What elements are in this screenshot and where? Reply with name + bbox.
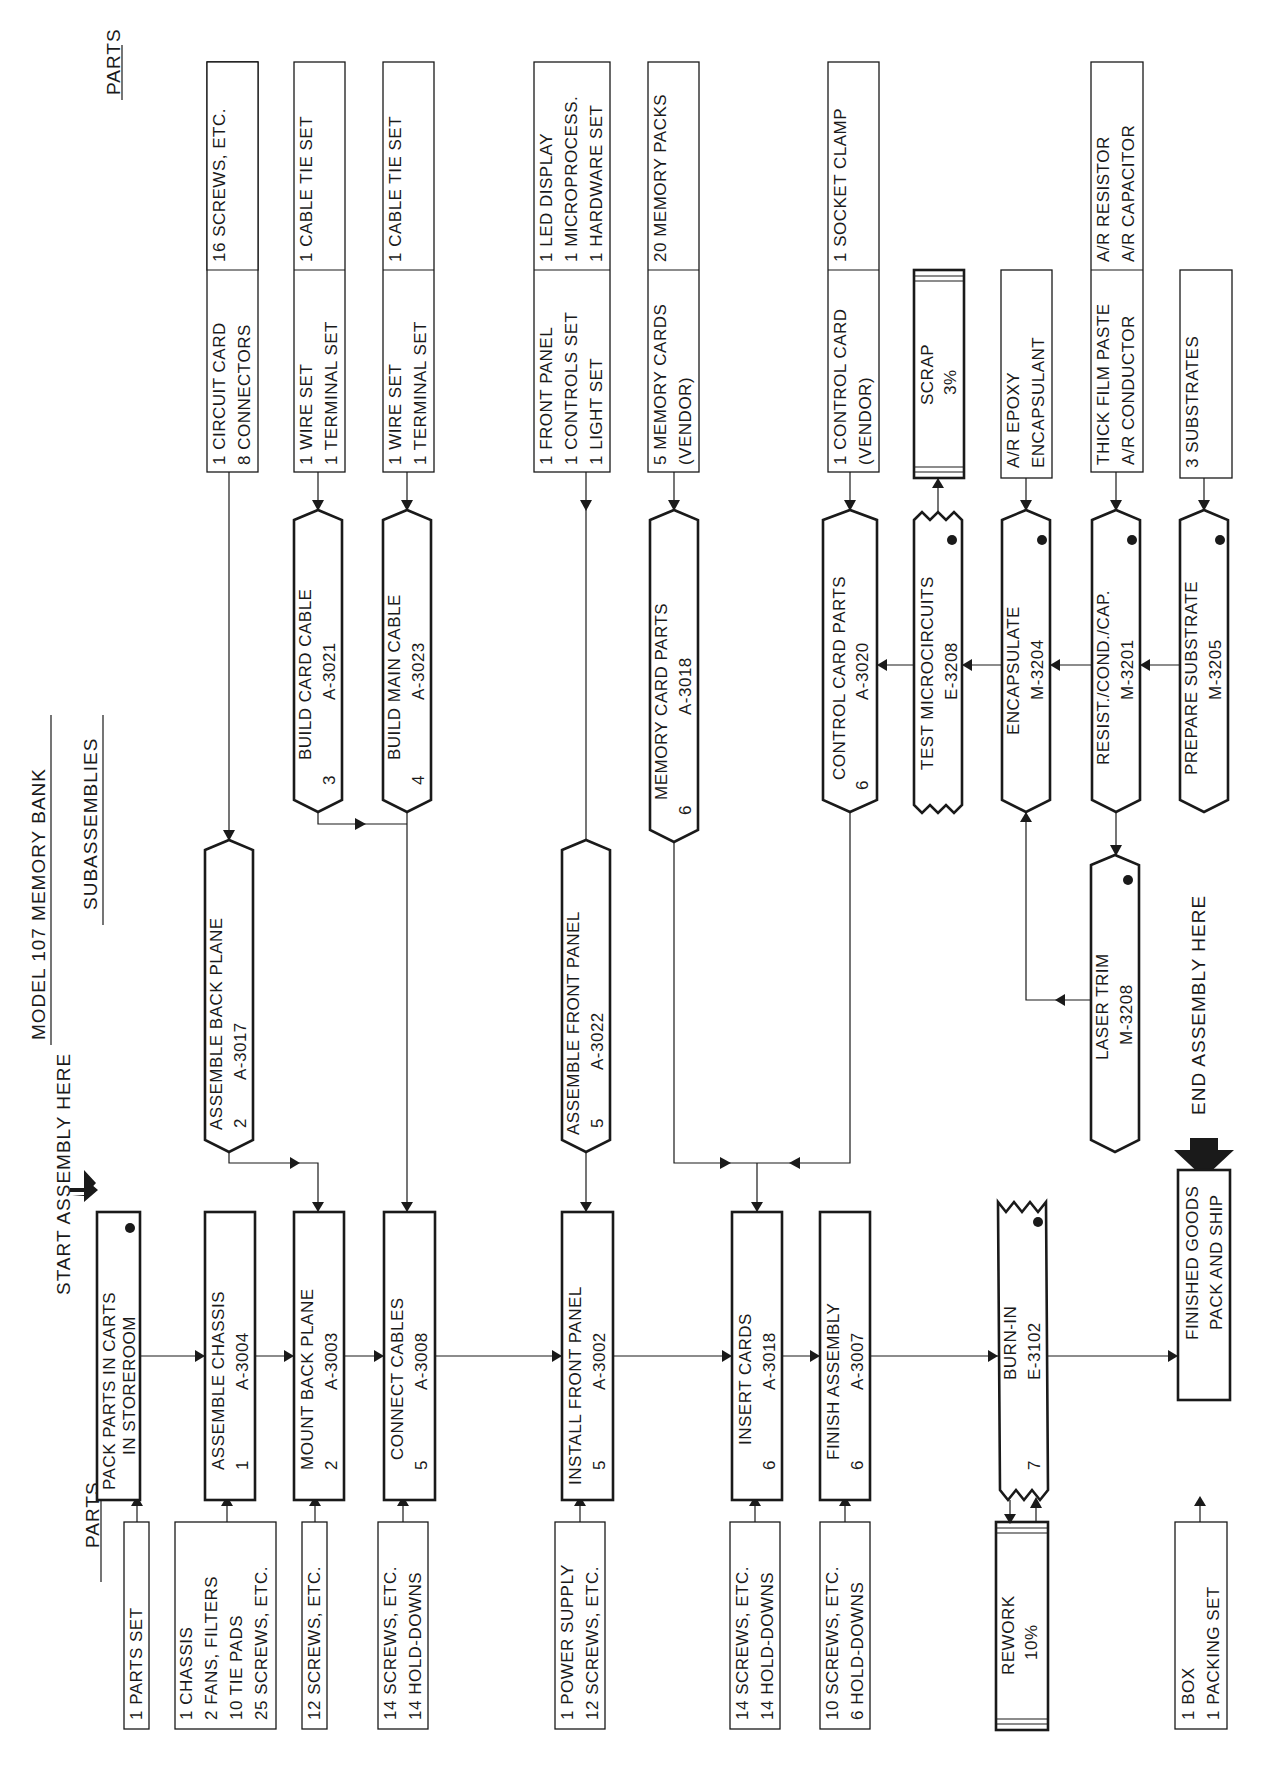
svg-text:(VENDOR): (VENDOR)	[676, 377, 695, 465]
parts-box-memory-cards: 5 MEMORY CARDS (VENDOR) 20 MEMORY PACKS	[648, 62, 699, 472]
svg-text:A/R CAPACITOR: A/R CAPACITOR	[1119, 125, 1138, 262]
svg-text:1 MICROPROCESS.: 1 MICROPROCESS.	[562, 96, 581, 262]
svg-text:3 SUBSTRATES: 3 SUBSTRATES	[1183, 336, 1202, 468]
svg-text:8 CONNECTORS: 8 CONNECTORS	[235, 324, 254, 465]
parts-right-layer: 1 CIRCUIT CARD 8 CONNECTORS 16 SCREWS, E…	[0, 0, 1269, 1768]
parts-box-substrates: 3 SUBSTRATES	[1180, 270, 1232, 478]
svg-text:16 SCREWS, ETC.: 16 SCREWS, ETC.	[210, 108, 229, 262]
parts-box-thick-film: THICK FILM PASTE A/R CONDUCTOR A/R RESIS…	[1091, 62, 1143, 472]
svg-text:A/R CONDUCTOR: A/R CONDUCTOR	[1119, 315, 1138, 465]
svg-text:1 CONTROL CARD: 1 CONTROL CARD	[831, 308, 850, 465]
svg-text:1 CONTROLS SET: 1 CONTROLS SET	[562, 312, 581, 465]
parts-box-card-cable: 1 WIRE SET 1 TERMINAL SET 1 CABLE TIE SE…	[294, 62, 345, 472]
svg-text:1 CABLE TIE SET: 1 CABLE TIE SET	[297, 116, 316, 262]
svg-text:1 FRONT PANEL: 1 FRONT PANEL	[537, 327, 556, 465]
svg-text:1 LED DISPLAY: 1 LED DISPLAY	[537, 133, 556, 262]
svg-text:1 WIRE SET: 1 WIRE SET	[386, 364, 405, 465]
svg-text:1 CABLE TIE SET: 1 CABLE TIE SET	[386, 116, 405, 262]
svg-text:A/R EPOXY: A/R EPOXY	[1004, 372, 1023, 468]
svg-text:1 TERMINAL SET: 1 TERMINAL SET	[322, 321, 341, 465]
svg-text:1 WIRE SET: 1 WIRE SET	[297, 364, 316, 465]
svg-text:1 LIGHT SET: 1 LIGHT SET	[587, 358, 606, 465]
svg-text:1 TERMINAL SET: 1 TERMINAL SET	[411, 321, 430, 465]
svg-text:(VENDOR): (VENDOR)	[856, 377, 875, 465]
svg-text:1 CIRCUIT CARD: 1 CIRCUIT CARD	[210, 322, 229, 465]
parts-box-control-card: 1 CONTROL CARD (VENDOR) 1 SOCKET CLAMP	[828, 62, 879, 472]
svg-text:1 HARDWARE SET: 1 HARDWARE SET	[587, 104, 606, 262]
svg-text:THICK FILM PASTE: THICK FILM PASTE	[1094, 303, 1113, 465]
svg-text:A/R RESISTOR: A/R RESISTOR	[1094, 136, 1113, 262]
svg-text:20 MEMORY PACKS: 20 MEMORY PACKS	[651, 94, 670, 262]
parts-box-main-cable: 1 WIRE SET 1 TERMINAL SET 1 CABLE TIE SE…	[383, 62, 434, 472]
svg-text:5 MEMORY CARDS: 5 MEMORY CARDS	[651, 304, 670, 465]
parts-box-epoxy: A/R EPOXY ENCAPSULANT	[1001, 270, 1052, 478]
svg-text:1 SOCKET CLAMP: 1 SOCKET CLAMP	[831, 108, 850, 262]
parts-box-front-panel: 1 FRONT PANEL 1 CONTROLS SET 1 LIGHT SET…	[534, 62, 610, 472]
parts-box-circuit-card-connectors: 1 CIRCUIT CARD 8 CONNECTORS 16 SCREWS, E…	[207, 62, 258, 472]
svg-text:ENCAPSULANT: ENCAPSULANT	[1029, 337, 1048, 468]
